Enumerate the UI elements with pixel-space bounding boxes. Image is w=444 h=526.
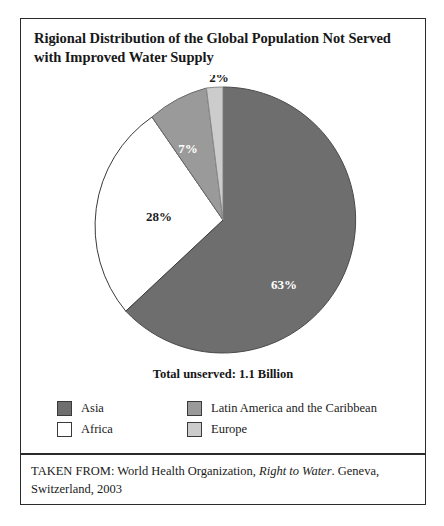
figure-frame: Rigional Distribution of the Global Popu… xyxy=(20,18,426,505)
legend-row: Africa Europe xyxy=(57,422,397,437)
legend-label-africa: Africa xyxy=(81,423,113,436)
legend-label-europe: Europe xyxy=(211,423,247,436)
legend-label-latin-america: Latin America and the Caribbean xyxy=(211,402,377,415)
legend-row: Asia Latin America and the Caribbean xyxy=(57,401,397,416)
legend-item-europe[interactable]: Europe xyxy=(187,422,397,437)
source-title: Right to Water xyxy=(259,464,331,478)
page-title: Rigional Distribution of the Global Popu… xyxy=(34,29,414,68)
source-prefix: TAKEN FROM: World Health Organization, xyxy=(31,464,259,478)
legend-swatch-europe xyxy=(187,422,202,437)
pie-chart: 63% 28% 7% 2% xyxy=(21,75,425,365)
legend-swatch-africa xyxy=(57,422,72,437)
pie-label-latin-america: 7% xyxy=(178,141,198,156)
pie-label-asia: 63% xyxy=(271,277,297,292)
legend-label-asia: Asia xyxy=(81,402,104,415)
source-divider xyxy=(21,453,425,455)
legend-item-latin-america[interactable]: Latin America and the Caribbean xyxy=(187,401,397,416)
legend-swatch-asia xyxy=(57,401,72,416)
chart-legend: Asia Latin America and the Caribbean Afr… xyxy=(57,401,397,443)
source-citation: TAKEN FROM: World Health Organization, R… xyxy=(31,463,415,499)
pie-label-africa: 28% xyxy=(146,209,172,224)
legend-item-asia[interactable]: Asia xyxy=(57,401,187,416)
legend-item-africa[interactable]: Africa xyxy=(57,422,187,437)
chart-panel: Rigional Distribution of the Global Popu… xyxy=(21,19,425,453)
legend-swatch-latin-america xyxy=(187,401,202,416)
total-unserved-caption: Total unserved: 1.1 Billion xyxy=(21,367,425,382)
pie-chart-svg: 63% 28% 7% 2% xyxy=(78,75,368,365)
pie-label-europe: 2% xyxy=(209,75,229,85)
